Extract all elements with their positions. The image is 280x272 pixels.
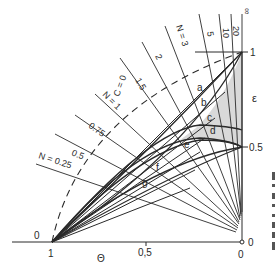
n-label-0-5: 0.5 bbox=[70, 148, 85, 162]
cropped-text-fragment bbox=[272, 214, 275, 217]
n-label-5: 5 bbox=[205, 31, 216, 38]
cropped-text-fragment bbox=[272, 222, 275, 228]
curve-label-f: f bbox=[156, 162, 159, 173]
theta-tick-0: 0 bbox=[238, 249, 244, 260]
cropped-text-fragment bbox=[272, 232, 275, 238]
origin-marker bbox=[240, 240, 244, 244]
n-label-3: N = 3 bbox=[174, 24, 190, 48]
origin-left-label: 0 bbox=[34, 230, 40, 241]
epsilon-axis-label: ε bbox=[252, 92, 257, 104]
curve-label-d: d bbox=[210, 125, 216, 136]
epsilon-tick-1: 1 bbox=[250, 47, 256, 58]
n-label-1-5: 1.5 bbox=[133, 76, 148, 92]
theta-tick-0-5: 0,5 bbox=[138, 247, 152, 258]
epsilon-tick-0-5: 0.5 bbox=[249, 142, 263, 153]
theta-axis-label: Θ bbox=[97, 253, 105, 264]
epsilon-tick-0: 0 bbox=[248, 237, 254, 248]
theta-tick-1: 1 bbox=[48, 248, 54, 259]
n-label-0-25: N = 0.25 bbox=[37, 150, 73, 170]
n-label-10: 10 bbox=[221, 28, 231, 38]
n-label-2: 2 bbox=[153, 53, 164, 62]
curve-label-e: e bbox=[184, 139, 190, 150]
cropped-text-fragment bbox=[272, 204, 275, 207]
curve-label-g: g bbox=[142, 177, 148, 188]
c-zero-label: C = 0 bbox=[111, 74, 128, 98]
n-label-20: 20 bbox=[231, 26, 241, 36]
curve-label-a: a bbox=[197, 82, 203, 93]
epsilon-ntu-diagram: N = 0.25 0.5 0.75 N = 1 1.5 2 N = 3 5 10… bbox=[0, 0, 280, 272]
cropped-text-fragment bbox=[272, 184, 275, 187]
cropped-text-fragment bbox=[272, 242, 275, 250]
n-label-0-75: 0.75 bbox=[87, 120, 107, 138]
n-label-infinity: ∞ bbox=[242, 8, 252, 14]
cropped-text-fragment bbox=[272, 172, 275, 180]
curve-label-b: b bbox=[201, 97, 207, 108]
cropped-text-fragment bbox=[272, 193, 275, 199]
curve-label-c: c bbox=[207, 112, 212, 123]
